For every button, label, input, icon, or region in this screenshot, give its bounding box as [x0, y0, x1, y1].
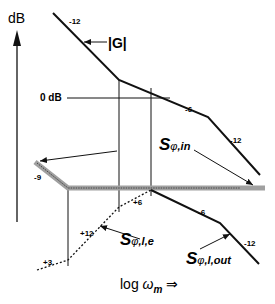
s-lout-slope-2: -12: [244, 239, 256, 248]
g-curve: [53, 13, 260, 175]
bode-diagram: dB -12 |G| -6 -12 0 dB Sφ,in -9 +3 +12 +…: [0, 0, 275, 304]
s-lout-label: Sφ,l,out: [186, 249, 231, 269]
s-in-label: Sφ,in: [159, 135, 190, 155]
diagram-lines: [0, 0, 275, 304]
g-slope-1: -12: [69, 17, 81, 26]
zero-db-label: 0 dB: [40, 92, 62, 103]
y-axis-arrow-icon: [13, 30, 21, 46]
y-axis-label: dB: [8, 10, 25, 26]
g-label: |G|: [108, 35, 127, 51]
s-le-slope-2: +12: [80, 229, 94, 238]
s-in-curve: [35, 162, 265, 188]
s-le-slope-1: +3: [43, 258, 52, 267]
g-slope-2: -6: [185, 105, 192, 114]
s-le-slope-3: +6: [133, 198, 142, 207]
s-lout-slope-1: -6: [198, 208, 205, 217]
g-slope-3: -12: [230, 136, 242, 145]
x-axis-label: log ωm ⇒: [120, 276, 178, 295]
right-arrow-icon: ⇒: [166, 276, 178, 292]
s-le-label: Sφ,l,e: [120, 230, 154, 250]
s-in-slope: -9: [34, 173, 41, 182]
